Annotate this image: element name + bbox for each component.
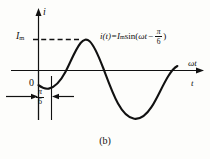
phase-dimension-arrow-right [52,94,74,100]
axis-label-peak-current: Im [16,31,24,42]
equation-annotation: i(t)=Imsin(ωt−π6) [100,28,166,45]
axis-label-omega-t: ωt [188,59,197,68]
equation-close-paren: ) [163,32,166,41]
sine-curve [39,40,178,119]
peak-label-subscript: m [19,34,24,41]
axis-label-current: i [43,7,46,17]
equation-phase-denominator: 6 [156,37,162,45]
phase-shift-numerator: π [37,88,43,97]
equation-phase-numerator: π [156,28,162,36]
equation-argument-angle: ωt [138,32,147,41]
axis-label-time: t [191,79,194,88]
sine-waveform-figure: i Im 0 ωt t i(t)=Imsin(ωt−π6) π6 (b) [0,0,210,159]
phase-shift-label: π6 [35,88,45,106]
equation-phase-fraction: π6 [155,28,162,45]
figure-caption: (b) [0,136,210,146]
equation-minus-sign: − [148,32,153,41]
axis-label-origin: 0 [29,78,34,88]
phase-dimension-arrow-left [6,94,38,100]
equation-lhs: i(t)= [100,32,117,41]
phase-shift-fraction: π6 [36,88,44,106]
phase-shift-denominator: 6 [37,98,43,107]
equation-sin-open: sin( [125,32,139,41]
